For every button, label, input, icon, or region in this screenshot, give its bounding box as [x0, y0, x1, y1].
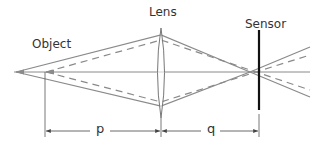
- object-distance-label: p: [93, 122, 107, 136]
- lens-label: Lens: [149, 5, 177, 19]
- dashed-rays: [46, 40, 310, 102]
- sensor-label: Sensor: [245, 17, 286, 31]
- dashed-origin-icon: [46, 70, 54, 75]
- image-distance-label: q: [204, 122, 218, 136]
- object-label: Object: [32, 37, 71, 51]
- object-point-icon: [16, 70, 24, 75]
